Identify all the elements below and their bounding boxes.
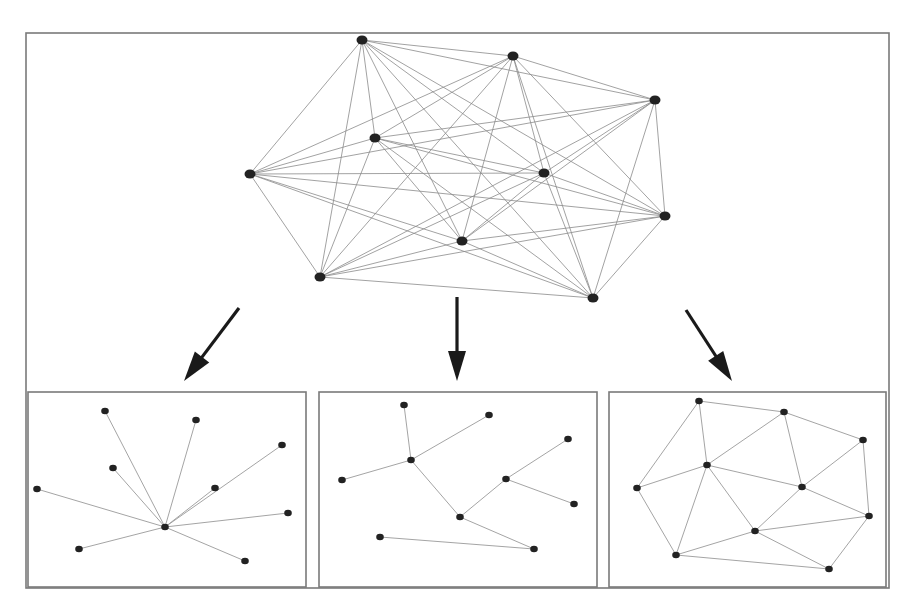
graph-edge: [320, 40, 362, 277]
graph-edge: [250, 173, 544, 174]
graph-edge: [755, 487, 802, 531]
graph-node: [660, 212, 671, 221]
graph-node: [192, 417, 200, 423]
triangulation-graph: [633, 398, 873, 572]
graph-edge: [513, 56, 544, 173]
graph-node: [407, 457, 415, 463]
graph-node: [211, 485, 219, 491]
arrow-right: [686, 310, 732, 381]
graph-node: [570, 501, 578, 507]
graph-edge: [707, 412, 784, 465]
graph-node: [357, 36, 368, 45]
graph-edge: [250, 174, 320, 277]
arrow-shaft: [201, 308, 239, 359]
graph-node: [33, 486, 41, 492]
graph-edge: [320, 173, 544, 277]
graph-edge: [462, 100, 655, 241]
graph-edge: [506, 479, 574, 504]
graph-edge: [79, 527, 165, 549]
graph-node: [865, 513, 873, 519]
graph-edge: [375, 138, 665, 216]
graph-node: [798, 484, 806, 490]
graph-edge: [544, 173, 593, 298]
graph-edge: [250, 138, 375, 174]
arrow-head: [448, 351, 466, 381]
graph-node: [650, 96, 661, 105]
graph-edge: [250, 56, 513, 174]
graph-edge: [165, 527, 245, 561]
graph-edge: [637, 465, 707, 488]
graph-node: [588, 294, 599, 303]
graph-edge: [699, 401, 784, 412]
graph-edge: [462, 216, 665, 241]
graph-edge: [320, 56, 513, 277]
graph-node: [530, 546, 538, 552]
graph-node: [502, 476, 510, 482]
graph-node: [780, 409, 788, 415]
graph-edge: [404, 405, 411, 460]
graph-node: [376, 534, 384, 540]
graph-edge: [165, 488, 215, 527]
panel-tree-graph: [319, 392, 597, 587]
graph-edge: [707, 465, 802, 487]
graph-node: [161, 524, 169, 530]
graph-edge: [513, 56, 665, 216]
arrow-shaft: [686, 310, 717, 358]
graph-node: [825, 566, 833, 572]
graph-edge: [593, 216, 665, 298]
graph-edge: [637, 488, 676, 555]
graph-edge: [375, 100, 655, 138]
graph-node: [400, 402, 408, 408]
graph-edge: [802, 487, 869, 516]
graph-edge: [250, 174, 462, 241]
graph-node: [370, 134, 381, 143]
graph-edge: [165, 420, 196, 527]
graph-edge: [676, 465, 707, 555]
graph-node: [101, 408, 109, 414]
graph-edge: [320, 216, 665, 277]
graph-edge: [320, 138, 375, 277]
complete-graph: [245, 36, 671, 303]
graph-edge: [863, 440, 869, 516]
graph-node: [703, 462, 711, 468]
graph-edge: [460, 479, 506, 517]
graph-node: [672, 552, 680, 558]
graph-node: [241, 558, 249, 564]
graph-edge: [362, 40, 655, 100]
graph-edge: [755, 516, 869, 531]
graph-node: [278, 442, 286, 448]
graph-node: [633, 485, 641, 491]
graph-edge: [784, 412, 802, 487]
graph-node: [564, 436, 572, 442]
graph-edge: [655, 100, 665, 216]
graph-node: [338, 477, 346, 483]
graph-node: [75, 546, 83, 552]
graph-edge: [462, 56, 513, 241]
graph-node: [315, 273, 326, 282]
graph-edge: [250, 100, 655, 174]
graph-edge: [320, 241, 462, 277]
graph-edge: [802, 440, 863, 487]
diagram-canvas: [0, 0, 915, 609]
graph-node: [284, 510, 292, 516]
graph-edge: [506, 439, 568, 479]
graph-node: [751, 528, 759, 534]
graph-edge: [411, 415, 489, 460]
graph-node: [485, 412, 493, 418]
graph-edge: [462, 173, 544, 241]
graph-edge: [250, 40, 362, 174]
graph-edge: [637, 401, 699, 488]
graph-edge: [342, 460, 411, 480]
star-graph: [33, 408, 292, 564]
graph-edge: [544, 100, 655, 173]
panel-triangulation-graph: [609, 392, 886, 587]
graph-node: [508, 52, 519, 61]
graph-node: [695, 398, 703, 404]
panel-star-graph: [28, 392, 306, 587]
graph-node: [539, 169, 550, 178]
graph-edge: [699, 401, 707, 465]
graph-node: [109, 465, 117, 471]
tree-graph: [338, 402, 578, 552]
arrow-head: [708, 351, 732, 381]
graph-node: [245, 170, 256, 179]
